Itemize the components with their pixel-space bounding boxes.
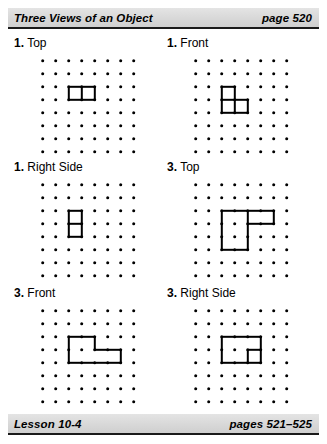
shape-segment — [272, 211, 274, 224]
panel-number: 3. — [167, 286, 177, 300]
shape-segment — [220, 337, 222, 363]
panel-view-label: Right Side — [180, 286, 235, 300]
grid-dot — [106, 322, 110, 326]
grid-dot — [246, 261, 250, 265]
grid-dot — [233, 124, 237, 128]
grid-dot — [285, 274, 289, 278]
grid-dot — [119, 59, 123, 63]
grid-dot — [207, 59, 211, 63]
shape-segment — [80, 211, 82, 237]
grid-dot — [207, 196, 211, 200]
grid-dot — [246, 59, 250, 63]
grid-dot — [119, 209, 123, 213]
grid-dot — [67, 72, 71, 76]
panel-view-label: Top — [27, 36, 46, 50]
grid-dot — [54, 183, 58, 187]
grid-dot — [132, 222, 136, 226]
grid-dot — [67, 322, 71, 326]
view-panel: 3. Right Side — [163, 286, 315, 410]
grid-dot — [80, 111, 84, 115]
grid-dot — [106, 309, 110, 313]
shape-segment — [248, 222, 274, 224]
grid-dot — [220, 59, 224, 63]
grid-dot — [259, 196, 263, 200]
grid-dot — [80, 124, 84, 128]
shape-segment — [67, 337, 69, 363]
grid-dot — [272, 361, 276, 365]
grid-dot — [54, 322, 58, 326]
grid-dot — [272, 137, 276, 141]
grid-dot — [194, 274, 198, 278]
footer-lesson-label: Lesson 10-4 — [14, 417, 82, 429]
grid-dot — [67, 111, 71, 115]
grid-dot — [93, 374, 97, 378]
grid-dot — [54, 261, 58, 265]
footer-page-reference: pages 521–525 — [229, 417, 312, 429]
grid-dot — [220, 72, 224, 76]
grid-dot — [272, 235, 276, 239]
grid-dot — [194, 248, 198, 252]
grid-dot — [93, 274, 97, 278]
grid-dot — [207, 400, 211, 404]
grid-dot — [132, 400, 136, 404]
grid-dot — [119, 235, 123, 239]
grid-dot — [106, 137, 110, 141]
grid-dot — [194, 98, 198, 102]
grid-dot — [259, 309, 263, 313]
grid-dot — [93, 124, 97, 128]
grid-dot — [106, 235, 110, 239]
grid-dot — [41, 235, 45, 239]
grid-dot — [132, 59, 136, 63]
grid-dot — [54, 150, 58, 154]
grid-dot — [67, 261, 71, 265]
grid-dot — [285, 72, 289, 76]
grid-dot — [285, 374, 289, 378]
shape-segment — [69, 361, 121, 363]
grid-dot — [220, 150, 224, 154]
grid-dot — [41, 183, 45, 187]
grid-dot — [67, 387, 71, 391]
grid-dot — [194, 111, 198, 115]
grid-dot — [259, 183, 263, 187]
grid-dot — [41, 400, 45, 404]
grid-dot — [119, 124, 123, 128]
grid-dot — [233, 59, 237, 63]
grid-dot — [80, 196, 84, 200]
grid-dot — [119, 137, 123, 141]
grid-dot — [54, 361, 58, 365]
grid-dot — [54, 222, 58, 226]
shape-segment — [246, 350, 248, 363]
grid-dot — [106, 111, 110, 115]
grid-dot — [272, 72, 276, 76]
grid-dot — [54, 387, 58, 391]
grid-dot — [220, 137, 224, 141]
grid-dot — [119, 335, 123, 339]
grid-dot — [93, 183, 97, 187]
grid-dot — [132, 235, 136, 239]
grid-dot — [207, 137, 211, 141]
grid-dot — [106, 150, 110, 154]
grid-dot — [285, 196, 289, 200]
grid-dot — [194, 261, 198, 265]
grid-dot — [54, 98, 58, 102]
grid-dot — [233, 274, 237, 278]
grid-dot — [54, 309, 58, 313]
grid-dot — [80, 348, 84, 352]
grid-dot — [41, 309, 45, 313]
grid-dot — [207, 322, 211, 326]
grid-dot — [119, 274, 123, 278]
grid-dot — [106, 72, 110, 76]
grid-dot — [54, 209, 58, 213]
grid-dot — [220, 400, 224, 404]
grid-dot — [106, 222, 110, 226]
grid-dot — [259, 124, 263, 128]
grid-dot — [41, 387, 45, 391]
panel-view-label: Front — [180, 36, 208, 50]
grid-dot — [54, 400, 58, 404]
panel-title: 1. Top — [14, 36, 47, 50]
grid-dot — [67, 400, 71, 404]
grid-dot — [132, 322, 136, 326]
grid-dot — [119, 196, 123, 200]
grid-dot — [41, 248, 45, 252]
grid-dot — [93, 400, 97, 404]
